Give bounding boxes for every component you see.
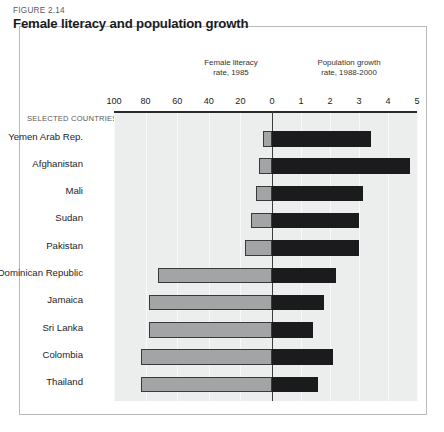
bar-row: Sri Lanka (114, 317, 417, 344)
bar-population-growth (272, 131, 371, 147)
panel-header-literacy: Female literacy rate, 1985 (185, 58, 277, 78)
bar-row: Jamaica (114, 289, 417, 316)
country-label: Dominican Republic (0, 267, 83, 278)
tick-label: 3 (346, 96, 372, 106)
bar-population-growth (272, 295, 324, 311)
bar-population-growth (272, 158, 410, 174)
bar-female-literacy (256, 186, 272, 202)
bar-row: Colombia (114, 344, 417, 371)
country-label: Pakistan (46, 240, 83, 251)
selected-countries-label: SELECTED COUNTRIES (27, 114, 118, 123)
bar-female-literacy (158, 268, 272, 284)
bar-row: Mali (114, 180, 417, 207)
tick-label: 2 (317, 96, 343, 106)
tick-label: 20 (227, 96, 253, 106)
country-label: Mali (65, 185, 83, 196)
tick-label: 0 (259, 96, 285, 106)
bar-row: Dominican Republic (114, 262, 417, 289)
tick-label: 4 (375, 96, 401, 106)
bar-population-growth (272, 186, 363, 202)
bar-row: Sudan (114, 207, 417, 234)
country-label: Jamaica (47, 294, 83, 305)
bar-female-literacy (263, 131, 272, 147)
bar-population-growth (272, 213, 359, 229)
figure-number: FIGURE 2.14 (13, 6, 65, 15)
tick-label: 5 (404, 96, 430, 106)
tick-label: 100 (101, 96, 127, 106)
chart-plot-area: 10080604020012345 Yemen Arab Rep.Afghani… (114, 113, 417, 401)
country-label: Yemen Arab Rep. (8, 131, 83, 142)
axis-rule (114, 111, 417, 113)
page-title: Female literacy and population growth (13, 16, 249, 31)
bar-population-growth (272, 268, 336, 284)
country-label: Afghanistan (32, 158, 83, 169)
panel-header-literacy-line2: rate, 1985 (185, 68, 277, 78)
country-label: Colombia (42, 349, 83, 360)
tick-label: 1 (288, 96, 314, 106)
panel-header-growth-line1: Population growth (290, 58, 408, 68)
bar-row: Pakistan (114, 235, 417, 262)
tick-label: 80 (133, 96, 159, 106)
tick-label: 60 (164, 96, 190, 106)
country-label: Thailand (46, 376, 83, 387)
bar-female-literacy (141, 377, 272, 393)
bar-female-literacy (259, 158, 272, 174)
gridline (417, 113, 418, 401)
bar-row: Thailand (114, 371, 417, 398)
bar-female-literacy (141, 349, 272, 365)
bar-population-growth (272, 349, 333, 365)
bar-population-growth (272, 240, 359, 256)
bar-row: Yemen Arab Rep. (114, 126, 417, 153)
bar-female-literacy (251, 213, 272, 229)
bar-female-literacy (245, 240, 272, 256)
bar-population-growth (272, 322, 313, 338)
bar-female-literacy (149, 322, 272, 338)
panel-header-growth-line2: rate, 1988-2000 (290, 68, 408, 78)
bar-female-literacy (149, 295, 272, 311)
bar-row: Afghanistan (114, 153, 417, 180)
panel-header-growth: Population growth rate, 1988-2000 (290, 58, 408, 78)
bar-population-growth (272, 377, 318, 393)
tick-label: 40 (196, 96, 222, 106)
country-label: Sri Lanka (42, 322, 83, 333)
panel-header-literacy-line1: Female literacy (185, 58, 277, 68)
country-label: Sudan (55, 212, 83, 223)
